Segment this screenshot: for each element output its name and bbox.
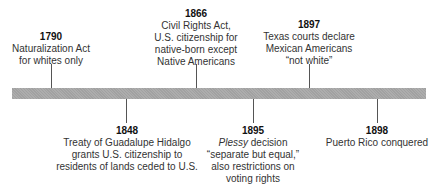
event-1848: 1848 Treaty of Guadalupe Hidalgo grants … bbox=[56, 125, 198, 173]
event-text: “separate but equal,” bbox=[207, 149, 299, 161]
event-year: 1790 bbox=[12, 31, 90, 43]
event-text-rest: decision bbox=[248, 137, 287, 148]
event-1895: 1895 Plessy decision “separate but equal… bbox=[207, 125, 299, 185]
timeline-bar bbox=[12, 88, 426, 99]
event-text: for whites only bbox=[12, 55, 90, 67]
event-1898: 1898 Puerto Rico conquered bbox=[326, 125, 428, 149]
event-text: also restrictions on bbox=[207, 161, 299, 173]
event-text: Naturalization Act bbox=[12, 43, 90, 55]
event-text: Native Americans bbox=[154, 56, 237, 68]
event-text: Mexican Americans bbox=[263, 43, 355, 55]
tick-1895 bbox=[253, 99, 254, 123]
event-text: residents of lands ceded to U.S. bbox=[56, 161, 198, 173]
tick-1848 bbox=[126, 99, 127, 123]
event-year: 1897 bbox=[263, 19, 355, 31]
event-text: Texas courts declare bbox=[263, 31, 355, 43]
event-text: U.S. citizenship for bbox=[154, 32, 237, 44]
case-name: Plessy bbox=[219, 137, 248, 148]
event-1897: 1897 Texas courts declare Mexican Americ… bbox=[263, 19, 355, 67]
event-year: 1895 bbox=[207, 125, 299, 137]
event-year: 1866 bbox=[154, 8, 237, 20]
event-text: voting rights bbox=[207, 173, 299, 185]
event-year: 1898 bbox=[326, 125, 428, 137]
event-1790: 1790 Naturalization Act for whites only bbox=[12, 31, 90, 67]
event-text: native-born except bbox=[154, 44, 237, 56]
event-text: Civil Rights Act, bbox=[154, 20, 237, 32]
event-text: Plessy decision bbox=[207, 137, 299, 149]
tick-1898 bbox=[377, 99, 378, 123]
event-1866: 1866 Civil Rights Act, U.S. citizenship … bbox=[154, 8, 237, 68]
event-year: 1848 bbox=[56, 125, 198, 137]
event-text: grants U.S. citizenship to bbox=[56, 149, 198, 161]
tick-1897 bbox=[309, 64, 310, 88]
event-text: Puerto Rico conquered bbox=[326, 137, 428, 149]
event-text: Treaty of Guadalupe Hidalgo bbox=[56, 137, 198, 149]
tick-1790 bbox=[51, 64, 52, 88]
event-text: “not white” bbox=[263, 55, 355, 67]
